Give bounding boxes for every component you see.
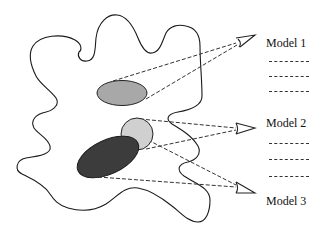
model-1-line-1 (269, 61, 309, 62)
eye-icon-model-3 (236, 182, 255, 193)
model-3-label: Model 3 (266, 194, 306, 208)
diagram-canvas: Model 1 Model 2 Model 3 (0, 0, 327, 237)
model-2-label: Model 2 (266, 116, 306, 130)
region-outline (17, 15, 210, 222)
model-1-line-3 (269, 91, 309, 92)
eye-icon-model-1 (236, 35, 255, 47)
object-medium-gray-ellipse (97, 81, 147, 106)
connection-object2-eye2 (140, 119, 236, 128)
connection-object1-eye1-bottom (146, 45, 237, 99)
model-2-line-1 (269, 143, 309, 144)
connection-object1-eye1-top (113, 43, 236, 81)
model-2-line-3 (269, 176, 309, 177)
connection-object2-eye3 (148, 140, 236, 185)
model-1-line-2 (269, 76, 309, 77)
model-2-line-2 (269, 159, 309, 160)
model-1-label: Model 1 (266, 36, 306, 50)
connection-object3-eye3 (98, 177, 236, 187)
eye-icon-model-2 (236, 123, 255, 134)
